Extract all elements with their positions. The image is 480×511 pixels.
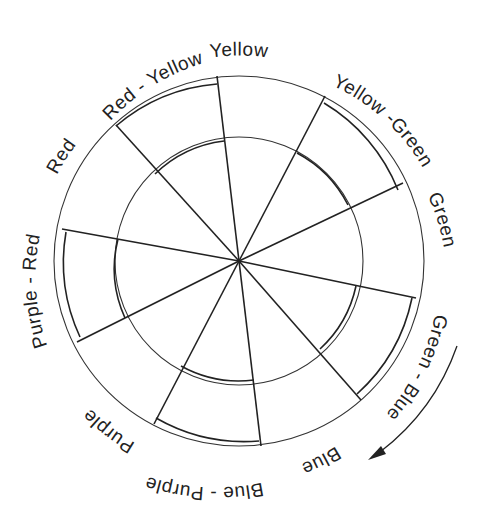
label-yellow-green: Yellow -Green — [330, 70, 438, 170]
label-purple: Purple — [78, 405, 138, 458]
label-blue: Blue — [299, 443, 345, 480]
color-wheel-diagram: Yellow Yellow -Green Green Green - Blue … — [0, 0, 480, 511]
label-blue-purple: Blue - Purple — [142, 473, 265, 505]
label-red: Red — [42, 134, 80, 177]
label-green-blue: Green - Blue — [382, 313, 451, 426]
label-yellow: Yellow — [209, 38, 270, 61]
label-red-yellow: Red - Yellow — [98, 47, 205, 124]
label-green: Green — [424, 189, 461, 249]
label-purple-red: Purple - Red — [19, 232, 51, 351]
